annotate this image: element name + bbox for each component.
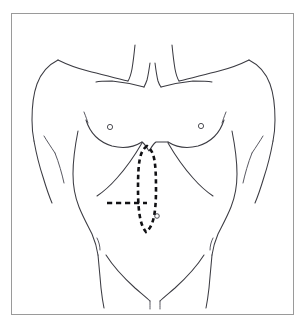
- right-axilla-line: [44, 136, 55, 153]
- left-axilla-line: [252, 136, 263, 153]
- right-nipple-icon: [107, 124, 112, 129]
- left-iliac-crest-notch: [210, 238, 213, 250]
- right-arm-outer-line: [34, 141, 52, 203]
- chest-group: [84, 112, 226, 147]
- right-hip-outline: [98, 255, 104, 308]
- torso-illustration: [0, 0, 306, 329]
- left-nipple-icon: [198, 123, 203, 128]
- right-iliac-crest-notch: [97, 238, 100, 250]
- left-shoulder-outline: [249, 60, 275, 141]
- right-trapezius-line: [58, 60, 128, 81]
- neck-right-line: [128, 45, 135, 81]
- right-inner-arm-line: [55, 153, 64, 183]
- left-clavicle: [161, 81, 212, 87]
- figure-root: [0, 0, 306, 329]
- sternal-notch-left: [155, 63, 161, 87]
- pelvis-group: [106, 255, 204, 309]
- neck-left-line: [172, 45, 179, 81]
- right-pectoral-curve: [86, 120, 142, 147]
- left-costal-margin: [168, 143, 213, 196]
- neck-group: [128, 45, 179, 87]
- right-torso-side: [73, 131, 98, 255]
- left-pectoral-curve: [168, 120, 224, 147]
- left-inner-arm-line: [243, 153, 252, 183]
- right-costal-margin: [97, 143, 142, 196]
- right-inguinal-crease: [106, 255, 150, 301]
- left-inguinal-crease: [160, 255, 204, 301]
- left-arm-outer-line: [255, 141, 273, 203]
- right-clavicle: [96, 81, 144, 87]
- left-torso-side: [212, 131, 237, 255]
- right-shoulder-outline: [32, 60, 58, 141]
- left-hip-outline: [206, 255, 212, 308]
- midline-vertical-incision-marking: [138, 146, 156, 232]
- left-trapezius-line: [179, 60, 249, 81]
- shoulder-group: [32, 60, 275, 141]
- sternal-notch-right: [144, 63, 150, 87]
